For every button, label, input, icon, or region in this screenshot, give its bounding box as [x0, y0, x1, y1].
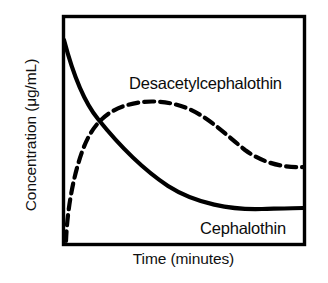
x-axis-label: Time (minutes)	[62, 250, 305, 268]
x-axis-label-text: Time (minutes)	[133, 250, 234, 267]
chart-plot-area	[0, 0, 328, 283]
series-label-desacetylcephalothin: Desacetylcephalothin	[129, 74, 282, 93]
series-label-cephalothin: Cephalothin	[200, 219, 286, 238]
y-axis-label: Concentration (μg/mL)	[18, 25, 44, 245]
chart-figure: Concentration (μg/mL) Time (minutes) Des…	[0, 0, 328, 283]
y-axis-label-text: Concentration (μg/mL)	[22, 59, 40, 211]
